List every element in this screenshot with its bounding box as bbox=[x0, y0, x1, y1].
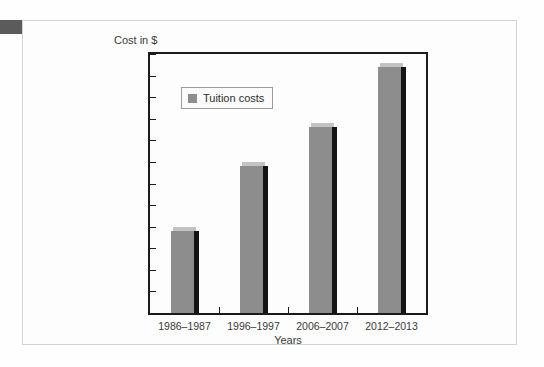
y-axis-tick-mark bbox=[150, 291, 156, 292]
bar bbox=[240, 166, 263, 313]
y-axis-title: Cost in $ bbox=[114, 34, 157, 46]
y-axis-tick-mark bbox=[150, 205, 156, 206]
x-axis-tick-label: 1996–1997 bbox=[227, 320, 280, 332]
bar-front-face bbox=[378, 67, 401, 313]
y-axis-tick-mark bbox=[150, 227, 156, 228]
x-axis-title: Years bbox=[148, 334, 428, 346]
bar-side-face bbox=[263, 166, 268, 313]
figure-card: Cost in $ 600055005000450040003500300025… bbox=[22, 20, 517, 345]
x-axis-tick-mark bbox=[288, 307, 289, 313]
legend-label: Tuition costs bbox=[203, 92, 264, 104]
y-axis-tick-mark bbox=[150, 270, 156, 271]
bar bbox=[378, 67, 401, 313]
y-axis-tick-mark bbox=[150, 119, 156, 120]
corner-marker bbox=[0, 20, 22, 34]
y-axis-tick-mark bbox=[150, 76, 156, 77]
bar bbox=[309, 127, 332, 313]
y-axis-tick-mark bbox=[150, 54, 156, 55]
plot-frame: 6000550050004500400035003000250020001500… bbox=[148, 52, 428, 315]
bar-side-face bbox=[332, 127, 337, 313]
y-axis-tick-mark bbox=[150, 162, 156, 163]
y-axis-tick-mark bbox=[150, 140, 156, 141]
bar-front-face bbox=[171, 231, 194, 313]
chart-legend: Tuition costs bbox=[181, 87, 273, 109]
y-axis-tick-mark bbox=[150, 184, 156, 185]
bar-side-face bbox=[401, 67, 406, 313]
bar-side-face bbox=[194, 231, 199, 313]
bar bbox=[171, 231, 194, 313]
y-axis-tick-mark bbox=[150, 248, 156, 249]
bar-front-face bbox=[240, 166, 263, 313]
x-axis-tick-label: 2012–2013 bbox=[365, 320, 418, 332]
x-axis-tick-label: 2006–2007 bbox=[296, 320, 349, 332]
x-axis-tick-mark bbox=[219, 307, 220, 313]
legend-swatch-icon bbox=[188, 94, 197, 103]
bar-front-face bbox=[309, 127, 332, 313]
x-axis-tick-label: 1986–1987 bbox=[158, 320, 211, 332]
bar-chart: Cost in $ 600055005000450040003500300025… bbox=[23, 21, 518, 346]
y-axis-tick-mark bbox=[150, 97, 156, 98]
x-axis-tick-mark bbox=[357, 307, 358, 313]
page-backdrop: Cost in $ 600055005000450040003500300025… bbox=[0, 0, 544, 367]
